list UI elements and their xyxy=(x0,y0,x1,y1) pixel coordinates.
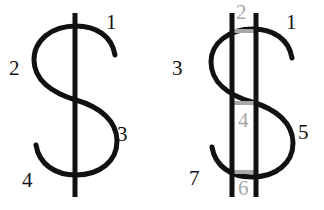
segment-label-4: 4 xyxy=(22,170,33,191)
segment-label-1: 1 xyxy=(286,12,297,33)
segment-label-6: 6 xyxy=(238,178,249,199)
figure-dollar-sign-double-bar: 1 2 3 4 5 6 7 xyxy=(162,0,324,210)
segment-label-3: 3 xyxy=(172,58,183,79)
segment-label-4: 4 xyxy=(238,110,249,131)
segment-label-7: 7 xyxy=(189,168,200,189)
segment-label-5: 5 xyxy=(298,122,309,143)
segment-label-3: 3 xyxy=(117,124,128,145)
figure-dollar-sign-single-bar: 1 2 3 4 xyxy=(0,0,162,210)
segment-label-1: 1 xyxy=(106,12,117,33)
segment-label-2: 2 xyxy=(9,58,20,79)
segment-label-2: 2 xyxy=(236,2,247,23)
diagram-canvas: 1 2 3 4 1 2 3 4 5 6 7 xyxy=(0,0,324,210)
